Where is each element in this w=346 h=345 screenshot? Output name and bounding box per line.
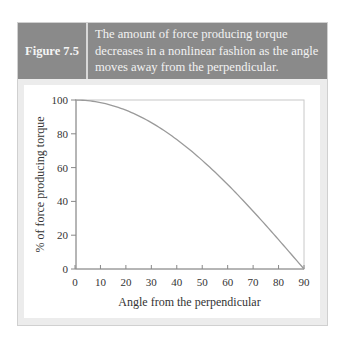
y-tick-label: 60 [57,162,69,174]
data-line [75,100,304,269]
x-tick-label: 70 [248,276,260,288]
y-tick-label: 0 [63,263,69,275]
plot-frame [76,100,304,269]
x-tick-label: 50 [197,276,209,288]
line-chart: 0204060801000102030405060708090Angle fro… [24,85,320,318]
y-tick-label: 80 [57,128,69,140]
x-tick-label: 0 [72,276,78,288]
x-tick-label: 90 [299,276,311,288]
figure-header: Figure 7.5 The amount of force producing… [18,23,327,79]
x-axis-label: Angle from the perpendicular [118,295,260,309]
y-tick-label: 20 [57,229,69,241]
figure-box: Figure 7.5 The amount of force producing… [17,22,328,326]
chart-panel: 0204060801000102030405060708090Angle fro… [24,85,320,318]
x-tick-label: 80 [273,276,285,288]
x-tick-label: 30 [146,276,158,288]
x-tick-label: 20 [120,276,132,288]
y-tick-label: 40 [57,195,69,207]
x-tick-label: 40 [171,276,183,288]
y-axis-label: % of force producing torque [33,117,47,253]
figure-caption: The amount of force producing torque dec… [88,23,327,79]
x-tick-label: 60 [222,276,234,288]
figure-label: Figure 7.5 [18,23,88,79]
y-tick-label: 100 [52,94,69,106]
x-tick-label: 10 [95,276,107,288]
